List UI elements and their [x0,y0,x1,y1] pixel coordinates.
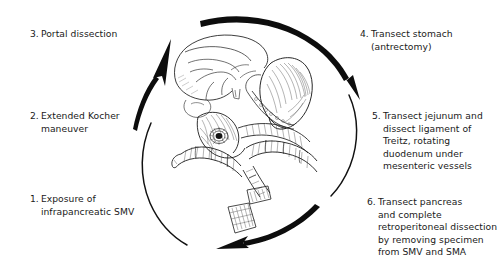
step-text-2: Extended Kocher maneuver [41,110,120,135]
step-number-3: 3. [30,28,41,40]
figure-canvas: 3.Portal dissection 2.Extended Kocher ma… [0,0,503,272]
step-label-1: 1.Exposure of infrapancreatic SMV [18,181,134,231]
step-number-5: 5. [372,110,383,122]
step-number-1: 1. [30,193,41,205]
step-label-3: 3.Portal dissection [18,16,117,53]
step-label-4: 4.Transect stomach (antrectomy) [348,16,453,66]
step-label-6: 6.Transect pancreas and complete retrope… [355,184,497,271]
step-text-5: Transect jejunum and dissect ligament of… [383,110,483,172]
resected-specimen-segments [228,186,271,233]
step-text-6: Transect pancreas and complete retroperi… [378,196,497,258]
step-number-4: 4. [360,28,371,40]
ascending-left-arrow [133,39,171,131]
step-number-2: 2. [30,110,41,122]
liver-structure [174,35,267,117]
pancreatic-duct-detail [209,127,228,145]
top-sweep-arrow [200,16,360,100]
step-text-1: Exposure of infrapancreatic SMV [41,193,134,218]
left-descending-arc [142,123,187,245]
bottom-sweep-arrow [216,204,320,249]
step-text-4: Transect stomach (antrectomy) [371,28,453,53]
step-text-3: Portal dissection [41,28,117,40]
step-number-6: 6. [367,196,378,208]
stomach-structure [246,58,313,129]
pancreas-structure [197,112,310,158]
step-label-2: 2.Extended Kocher maneuver [18,98,120,148]
anatomy-illustration [172,35,317,233]
step-label-5: 5.Transect jejunum and dissect ligament … [360,98,483,185]
right-connector-arc [331,95,357,196]
